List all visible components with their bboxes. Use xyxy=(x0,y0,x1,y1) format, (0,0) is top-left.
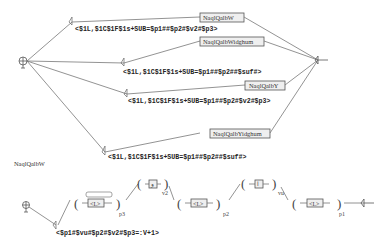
svg-text:<L>: <L> xyxy=(309,201,320,207)
svg-text:<L>: <L> xyxy=(90,201,101,207)
subgraph-box-naqlqalbyidghum[interactable]: NaqlQalbYidghum xyxy=(210,129,270,138)
output-marker-icon xyxy=(69,17,127,155)
svg-text:): ) xyxy=(272,176,276,191)
svg-text:): ) xyxy=(216,196,220,211)
svg-text:NaqlQalbW: NaqlQalbW xyxy=(203,14,235,21)
group-vu[interactable]: ( ا ) vu xyxy=(241,176,284,196)
group-v2[interactable]: ( و ) v2 xyxy=(137,176,168,196)
svg-text:(: ( xyxy=(292,196,296,211)
subgraph-box-naqlqalby[interactable]: NaqlQalbY xyxy=(245,81,285,90)
svg-text:p2: p2 xyxy=(223,211,229,217)
output-label-1: <$1L,$1C$1F$1s+SUB=$p1##$p2#$v2#$p3> xyxy=(75,26,217,33)
sub-initial-state-icon xyxy=(23,202,30,213)
output-label-2: <$1L,$1C$1F$1s+SUB=$p1##$p2##$suf#> xyxy=(123,69,262,76)
svg-text:NaqlQalbY: NaqlQalbY xyxy=(249,82,279,89)
svg-text:): ) xyxy=(164,176,168,191)
svg-text:<L>: <L> xyxy=(193,201,204,207)
subgraph-box-naqlqalbw[interactable]: NaqlQalbW xyxy=(200,13,244,22)
svg-text:و: و xyxy=(150,181,154,188)
graph-canvas: NaqlQalbW NaqlQalbWidghum NaqlQalbY Naql… xyxy=(0,0,388,252)
group-p2[interactable]: ( <L> ) p2 xyxy=(177,196,229,217)
svg-text:ا: ا xyxy=(257,181,259,187)
output-label-3: <$1L,$1C$1F$1s+SUB=$p1##$p2#$v2#$p3> xyxy=(128,98,270,105)
svg-text:NaqlQalbYidghum: NaqlQalbYidghum xyxy=(213,130,262,137)
svg-text:(: ( xyxy=(137,176,141,191)
svg-text:): ) xyxy=(337,196,341,211)
svg-text:(: ( xyxy=(177,196,181,211)
svg-text:p3: p3 xyxy=(119,211,125,217)
subgraph-box-naqlqalbwidghum[interactable]: NaqlQalbWidghum xyxy=(200,37,264,46)
svg-text:p1: p1 xyxy=(339,211,345,217)
svg-text:(: ( xyxy=(241,176,245,191)
svg-text:): ) xyxy=(116,196,120,211)
svg-text:(: ( xyxy=(74,196,78,211)
group-p3[interactable]: ( <L> ) p3 xyxy=(74,192,125,217)
svg-text:NaqlQalbWidghum: NaqlQalbWidghum xyxy=(203,38,253,45)
initial-state-icon xyxy=(19,57,27,68)
group-p1[interactable]: ( <L> ) p1 xyxy=(292,196,345,217)
sub-output-label: <$p1#$vu#$p2#$v2#$p3=:V+1> xyxy=(56,230,159,237)
svg-text:v2: v2 xyxy=(162,190,168,196)
output-label-4: <$1L,$1C$1F$1s+SUB=$p1##$p2##$suf#> xyxy=(108,154,247,161)
subgraph-title: NaqlQalbW xyxy=(14,160,46,167)
